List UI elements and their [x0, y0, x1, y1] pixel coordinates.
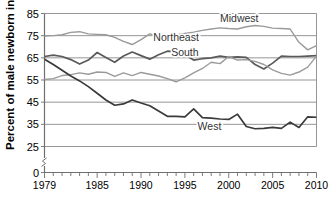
y-tick-label: 55 — [27, 74, 39, 86]
x-axis-ticks: 1979198519901995200020052010 — [33, 173, 329, 191]
y-tick-label: 85 — [27, 8, 39, 20]
x-tick-label: 2010 — [305, 179, 329, 191]
x-tick-label: 1995 — [173, 179, 197, 191]
series-label-west: West — [198, 120, 222, 132]
x-tick-label: 1985 — [85, 179, 109, 191]
x-tick-label: 2005 — [261, 179, 285, 191]
line-chart: 8575655545352501979198519901995200020052… — [0, 0, 336, 208]
x-tick-label: 2000 — [217, 179, 241, 191]
y-tick-label: 25 — [27, 141, 39, 153]
y-tick-label: 65 — [27, 52, 39, 64]
y-axis-ticks: 857565554535250 — [27, 8, 45, 179]
x-tick-label: 1990 — [129, 179, 153, 191]
axis-break-marker — [42, 158, 47, 167]
chart-figure: 8575655545352501979198519901995200020052… — [0, 0, 336, 208]
y-tick-label: 45 — [27, 96, 39, 108]
y-tick-label: 75 — [27, 30, 39, 42]
x-tick-label: 1979 — [33, 179, 57, 191]
series-label-northeast: Northeast — [153, 31, 199, 43]
y-axis-title: Percent of male newborn infants — [4, 0, 16, 150]
series-label-south: South — [171, 46, 199, 58]
y-tick-label: 0 — [33, 167, 39, 179]
y-tick-label: 35 — [27, 118, 39, 130]
series-label-midwest: Midwest — [220, 12, 259, 24]
series-line-west — [45, 59, 317, 129]
